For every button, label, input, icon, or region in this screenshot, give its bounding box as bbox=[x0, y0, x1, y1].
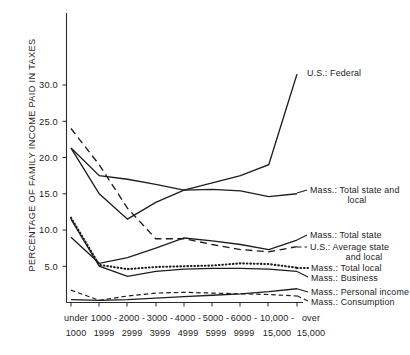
annotation-us-federal: U.S.: Federal bbox=[307, 68, 361, 78]
series-mass-total-state bbox=[71, 237, 297, 263]
annotations-group: U.S.: Federal Mass.: Total state and loc… bbox=[297, 68, 409, 307]
leader-mass-business bbox=[297, 272, 308, 278]
annotation-mass-total-local: Mass.: Total local bbox=[311, 263, 382, 273]
y-tick-label-20: 20.0 bbox=[39, 153, 58, 163]
x-tick-label-top-3: 3000 - bbox=[147, 313, 173, 323]
leader-mass-personal-income bbox=[297, 289, 308, 292]
y-tick-label-10: 10.0 bbox=[39, 225, 58, 235]
annotation-mass-total-state: Mass.: Total state bbox=[310, 230, 382, 240]
y-axis-title: PERCENTAGE OF FAMILY INCOME PAID IN TAXE… bbox=[27, 5, 37, 305]
data-series-group bbox=[71, 74, 297, 300]
x-tick-label-top-5: 5000 - bbox=[203, 313, 229, 323]
annotation-mass-total-state-local-line1: Mass.: Total state and bbox=[310, 185, 399, 195]
x-tick-label-top-0: under bbox=[64, 313, 88, 323]
chart-svg: 5.0 10.0 15.0 20.0 25.0 30.0 under 1000 … bbox=[0, 0, 410, 355]
annotation-mass-personal-income: Mass.: Personal income bbox=[311, 287, 409, 297]
series-mass-total-state-local bbox=[71, 148, 297, 197]
leader-mass-consumption bbox=[297, 296, 308, 301]
annotation-mass-business: Mass.: Business bbox=[311, 273, 378, 283]
x-tick-label-bottom-2: 2999 bbox=[122, 328, 143, 338]
annotation-mass-total-state-local-line2: local bbox=[347, 195, 366, 205]
series-mass-total-local bbox=[71, 218, 297, 269]
series-mass-business bbox=[71, 219, 297, 276]
x-tick-label-bottom-4: 4999 bbox=[178, 328, 199, 338]
x-tick-label-top-2: 2000 - bbox=[119, 313, 145, 323]
x-tick-label-top-7: 10,000 - bbox=[260, 313, 294, 323]
x-tick-label-bottom-8: 15,000 bbox=[297, 328, 325, 338]
y-tick-label-30: 30.0 bbox=[39, 80, 58, 90]
y-tick-label-15: 15.0 bbox=[39, 189, 58, 199]
x-tick-label-bottom-7: 15,000 bbox=[263, 328, 291, 338]
series-mass-personal-income bbox=[71, 289, 297, 301]
x-tick-label-bottom-6: 9999 bbox=[234, 328, 255, 338]
annotation-mass-consumption: Mass.: Consumption bbox=[311, 297, 395, 307]
x-tick-label-top-8: over bbox=[302, 313, 320, 323]
annotation-us-average-state-local-line2: and local bbox=[346, 252, 383, 262]
y-tick-label-5: 5.0 bbox=[44, 262, 58, 272]
axes bbox=[67, 13, 304, 303]
y-axis-ticks: 5.0 10.0 15.0 20.0 25.0 30.0 bbox=[39, 80, 66, 271]
x-tick-label-bottom-3: 3999 bbox=[150, 328, 171, 338]
x-tick-label-bottom-0: 1000 bbox=[66, 328, 87, 338]
x-tick-label-bottom-5: 5999 bbox=[206, 328, 227, 338]
leader-mass-total-state bbox=[297, 235, 307, 240]
annotation-us-average-state-local-line1: U.S.: Average state bbox=[310, 242, 389, 252]
x-tick-label-top-6: 6000 - bbox=[231, 313, 257, 323]
x-tick-label-bottom-1: 1999 bbox=[94, 328, 115, 338]
x-tick-label-top-4: 4000 - bbox=[175, 313, 201, 323]
series-us-federal bbox=[71, 74, 297, 219]
leader-mass-total-state-local bbox=[297, 190, 307, 193]
chart-figure: PERCENTAGE OF FAMILY INCOME PAID IN TAXE… bbox=[0, 0, 410, 355]
x-axis-ticks: under 1000 - 2000 - 3000 - 4000 - 5000 -… bbox=[64, 303, 325, 339]
x-tick-label-top-1: 1000 - bbox=[91, 313, 117, 323]
y-tick-label-25: 25.0 bbox=[39, 117, 58, 127]
